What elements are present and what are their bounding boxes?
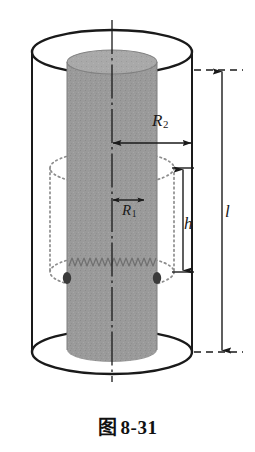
physics-figure: R2 R1 h l 图8-31 (0, 0, 255, 452)
figure-caption-number: 8-31 (118, 417, 158, 438)
coil-lead-right (153, 272, 161, 284)
dimension-l (194, 70, 243, 352)
label-r1-base: R (122, 202, 131, 218)
figure-caption-prefix: 图 (98, 417, 118, 438)
label-h: h (184, 215, 193, 232)
label-l-base: l (225, 202, 230, 221)
label-r1-subscript: 1 (131, 208, 136, 219)
label-l: l (225, 203, 230, 220)
label-r1: R1 (122, 203, 136, 218)
figure-caption: 图8-31 (0, 412, 255, 439)
coil-lead-left (63, 272, 71, 284)
figure-drawing (0, 0, 255, 452)
label-r2-base: R (152, 111, 162, 130)
label-h-base: h (184, 214, 193, 233)
label-r2-subscript: 2 (162, 118, 168, 130)
label-r2: R2 (152, 112, 168, 130)
